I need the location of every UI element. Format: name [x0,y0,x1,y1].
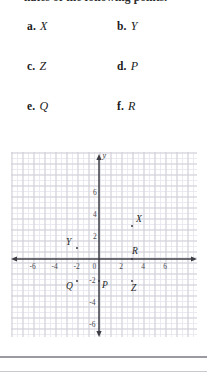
y-tick--2: -2 [89,277,95,285]
choice-d[interactable]: d.P [117,60,138,73]
choice-c[interactable]: c.Z [27,60,46,73]
x-tick-0: 0 [93,263,97,271]
x-tick-6: 6 [163,263,167,271]
page-rule-thick [0,356,207,358]
choice-e-tag: e. [27,100,35,112]
choice-f[interactable]: f.R [117,100,135,113]
point-q-label: Q [66,282,73,292]
choice-f-point: R [128,99,135,113]
point-x-label: X [136,215,142,225]
choice-b-point: Y [131,19,138,33]
coordinate-plane: -6-4-20246642-2-4-6y XYRQPZ [11,152,197,337]
choice-a[interactable]: a.X [27,20,47,33]
y-tick-4: 4 [93,211,97,219]
page-rule-thin [0,371,207,372]
x-tick-4: 4 [141,263,145,271]
x-tick--2: -2 [73,263,79,271]
point-y-label: Y [66,238,71,248]
choice-a-point: X [40,19,47,33]
choice-f-tag: f. [117,100,124,112]
choice-b[interactable]: b.Y [117,20,137,33]
question-stem-clip: nates of the following points. [0,0,207,9]
y-tick--4: -4 [89,299,95,307]
y-tick--6: -6 [89,321,95,329]
answer-choices: a.X b.Y c.Z d.P e.Q f.R [0,12,207,134]
y-axis-name: y [103,152,107,160]
y-tick-2: 2 [93,233,97,241]
choice-d-point: P [131,59,138,73]
point-z-label: Z [131,284,136,294]
axes [11,152,197,337]
x-tick-2: 2 [119,263,123,271]
y-tick-6: 6 [93,189,97,197]
x-tick--4: -4 [51,263,57,271]
choice-c-point: Z [39,59,46,73]
choice-e-point: Q [39,99,48,113]
choice-b-tag: b. [117,20,127,32]
point-p-label: P [102,281,108,291]
question-stem: nates of the following points. [24,0,167,3]
point-r-label: R [132,247,138,257]
x-tick--6: -6 [29,263,35,271]
choice-e[interactable]: e.Q [27,100,48,113]
choice-d-tag: d. [117,60,127,72]
choice-a-tag: a. [27,20,36,32]
choice-c-tag: c. [27,60,35,72]
